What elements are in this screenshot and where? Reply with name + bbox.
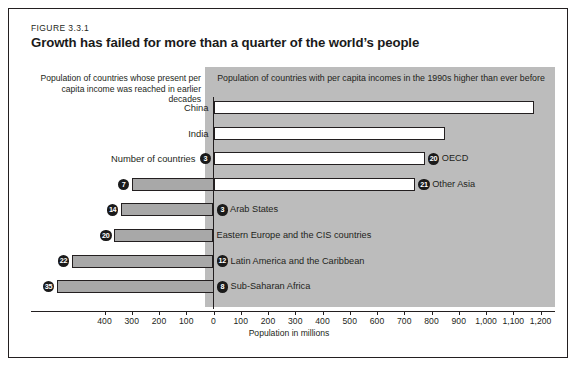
country-count-badge-right: 8	[217, 281, 229, 293]
table-row: 320 OECDNumber of countries	[23, 150, 555, 167]
bar-positive	[214, 127, 446, 140]
row-label-left: China	[184, 101, 209, 114]
axis-tick	[105, 311, 106, 315]
axis-tick	[323, 311, 324, 315]
x-axis-title: Population in millions	[23, 328, 555, 338]
axis-tick-label: 700	[397, 316, 411, 326]
axis-tick	[295, 311, 296, 315]
axis-tick-label: 500	[343, 316, 357, 326]
table-row: 2212 Latin America and the Caribbean	[23, 253, 555, 270]
table-row: China	[23, 99, 555, 116]
bar-positive	[214, 178, 416, 191]
country-count-badge-right: 21	[418, 179, 430, 191]
axis-tick	[350, 311, 351, 315]
caption-right-region: Population of countries with per capita …	[209, 73, 553, 84]
figure-title: Growth has failed for more than a quarte…	[31, 35, 419, 50]
axis-tick	[377, 311, 378, 315]
badge-value: 35	[43, 281, 55, 293]
axis-tick-label: 1,200	[530, 316, 552, 326]
axis-tick-label: 900	[452, 316, 466, 326]
axis-tick-label: 1,100	[502, 316, 524, 326]
country-count-badge-left: 3	[200, 152, 212, 165]
axis-tick-label: 300	[125, 316, 139, 326]
table-row: 358 Sub-Saharan Africa	[23, 278, 555, 295]
figure-container: FIGURE 3.3.1 Growth has failed for more …	[8, 8, 568, 358]
country-count-badge-right: 20	[428, 153, 440, 165]
country-count-badge-left: 7	[118, 178, 130, 191]
badge-value: 20	[100, 230, 112, 242]
axis-tick-label: 0	[211, 316, 216, 326]
row-label-right: 21 Other Asia	[418, 178, 475, 191]
row-label-right: 20 OECD	[428, 152, 469, 165]
bar-negative	[114, 229, 213, 242]
row-label-text: Latin America and the Caribbean	[231, 256, 365, 266]
row-label-text: Eastern Europe and the CIS countries	[217, 230, 372, 240]
row-label-right: 12 Latin America and the Caribbean	[217, 255, 365, 268]
country-count-badge-left: 22	[58, 255, 70, 268]
row-label-text: Other Asia	[432, 179, 475, 189]
figure-number: FIGURE 3.3.1	[31, 23, 89, 33]
axis-tick	[432, 311, 433, 315]
badge-value: 3	[200, 153, 212, 165]
axis-tick-label: 400	[97, 316, 111, 326]
country-count-badge-right: 3	[217, 204, 229, 216]
bar-positive	[214, 152, 425, 165]
axis-tick	[186, 311, 187, 315]
axis-tick-label: 200	[152, 316, 166, 326]
bar-negative	[72, 255, 214, 268]
row-label-right: 8 Sub-Saharan Africa	[217, 280, 311, 293]
axis-tick	[513, 311, 514, 315]
axis-tick	[459, 311, 460, 315]
bar-negative	[121, 203, 214, 216]
axis-tick	[132, 311, 133, 315]
country-count-badge-right: 12	[217, 255, 229, 267]
badge-value: 14	[107, 204, 119, 216]
table-row: 20Eastern Europe and the CIS countries	[23, 227, 555, 244]
axis-tick	[541, 311, 542, 315]
row-label-right: Eastern Europe and the CIS countries	[217, 229, 372, 242]
row-label-text: OECD	[442, 153, 469, 163]
badge-value: 7	[118, 179, 130, 191]
axis-tick	[268, 311, 269, 315]
axis-tick-label: 800	[424, 316, 438, 326]
x-axis-line	[31, 311, 555, 312]
row-label-left: India	[188, 127, 208, 140]
bar-negative	[132, 178, 214, 191]
x-axis: 4003002001000100200300400500600700800900…	[23, 311, 555, 347]
axis-tick	[159, 311, 160, 315]
country-count-badge-left: 20	[100, 229, 112, 242]
table-row: 721 Other Asia	[23, 176, 555, 193]
chart-plot-area: Population of countries whose present pe…	[23, 67, 555, 347]
axis-tick	[214, 311, 215, 315]
badge-value: 22	[58, 255, 70, 267]
axis-tick-label: 300	[288, 316, 302, 326]
axis-tick-label: 200	[261, 316, 275, 326]
country-count-badge-left: 35	[43, 280, 55, 293]
bar-positive	[214, 101, 534, 114]
row-label-text: Sub-Saharan Africa	[231, 281, 311, 291]
axis-tick-label: 100	[234, 316, 248, 326]
axis-tick-label: 600	[370, 316, 384, 326]
bar-negative	[57, 280, 214, 293]
table-row: India	[23, 125, 555, 142]
country-count-badge-left: 14	[107, 203, 119, 216]
axis-tick-label: 100	[179, 316, 193, 326]
axis-tick-label: 1,000	[475, 316, 497, 326]
number-of-countries-note: Number of countries	[111, 152, 195, 165]
table-row: 143 Arab States	[23, 201, 555, 218]
row-label-text: Arab States	[230, 204, 278, 214]
axis-tick	[486, 311, 487, 315]
axis-tick	[241, 311, 242, 315]
row-label-right: 3 Arab States	[217, 203, 279, 216]
axis-tick-label: 400	[315, 316, 329, 326]
axis-tick	[404, 311, 405, 315]
